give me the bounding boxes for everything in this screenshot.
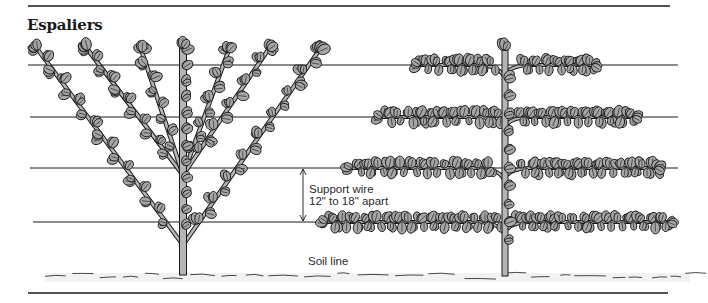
- figure-title: Espaliers: [27, 16, 103, 34]
- leaf-icon: [420, 117, 427, 126]
- leaf-icon: [196, 135, 205, 142]
- leaf-icon: [353, 222, 363, 234]
- espalier-drawing: [0, 0, 708, 303]
- leaf-icon: [614, 213, 622, 223]
- leaf-icon: [574, 222, 581, 231]
- leaf-icon: [404, 213, 411, 222]
- leaf-icon: [239, 149, 247, 159]
- soil-line-hatching: [45, 272, 706, 282]
- tiered-espalier-tree: [315, 37, 678, 276]
- leaf-icon: [397, 222, 406, 234]
- support-wire-label: Support wire 12" to 18" apart: [309, 183, 388, 207]
- leaf-icon: [471, 213, 478, 222]
- espalier-illustration: Espaliers Support wire 12" to 18" apart …: [0, 0, 708, 303]
- leaf-icon: [467, 168, 475, 178]
- leaf-icon: [559, 213, 566, 222]
- leaf-icon: [484, 157, 493, 169]
- leaf-icon: [209, 118, 219, 130]
- leaf-icon: [420, 222, 427, 232]
- leaf-icon: [300, 65, 307, 74]
- leaf-icon: [643, 168, 651, 178]
- leaf-icon: [520, 117, 527, 126]
- leaf-icon: [491, 65, 499, 76]
- leaf-icon: [223, 61, 232, 68]
- support-wire-label-line1: Support wire: [309, 183, 388, 195]
- leaf-icon: [519, 222, 526, 231]
- leaf-icon: [209, 191, 218, 202]
- leaf-icon: [237, 91, 250, 101]
- leaf-icon: [394, 108, 401, 117]
- leaf-icon: [574, 117, 583, 129]
- leaf-icon: [608, 222, 615, 231]
- soil-line-label: Soil line: [308, 255, 348, 267]
- support-wire-label-line2: 12" to 18" apart: [309, 195, 388, 207]
- leaf-icon: [257, 52, 264, 62]
- fan-espalier-tree: [27, 36, 332, 275]
- leaf-icon: [447, 65, 454, 74]
- support-wire-dimension-arrow: [300, 169, 306, 221]
- leaf-icon: [395, 156, 404, 168]
- leaf-icon: [423, 168, 432, 179]
- page-rules: [28, 6, 670, 293]
- leaf-icon: [650, 222, 660, 234]
- leaf-icon: [141, 129, 152, 138]
- soil-stroke: [685, 273, 706, 274]
- leaf-icon: [577, 168, 585, 178]
- leaf-icon: [621, 168, 629, 178]
- leaf-icon: [408, 117, 418, 130]
- leaf-icon: [284, 85, 292, 95]
- leaf-icon: [252, 70, 261, 77]
- leaf-icon: [404, 106, 413, 117]
- leaf-icon: [374, 158, 382, 169]
- leaf-icon: [254, 128, 262, 138]
- leaf-icon: [214, 84, 225, 93]
- leaf-icon: [639, 160, 645, 168]
- leaf-icon: [487, 56, 494, 65]
- leaf-icon: [205, 110, 215, 117]
- leaf-icon: [194, 142, 202, 152]
